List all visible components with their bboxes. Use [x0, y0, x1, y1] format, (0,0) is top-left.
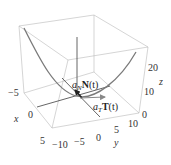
y-axis-label: y: [113, 137, 119, 148]
tangent-vector-label: aTT(t): [93, 101, 118, 114]
svg-text:0: 0: [96, 132, 101, 143]
svg-text:0: 0: [142, 109, 147, 120]
x-axis-label: x: [13, 113, 19, 124]
svg-text:5: 5: [40, 135, 45, 146]
svg-text:−5: −5: [8, 87, 19, 98]
svg-text:−5: −5: [74, 136, 85, 147]
svg-text:5: 5: [114, 124, 119, 135]
svg-text:20: 20: [148, 62, 158, 73]
bounding-box: [19, 15, 148, 128]
z-axis-label: z: [158, 76, 163, 87]
svg-text:0: 0: [28, 109, 33, 120]
3d-plot: aNN(t) aTT(t) −5 0 5 x −10 −5 0 5 10 y 0…: [0, 0, 171, 165]
svg-text:−10: −10: [52, 139, 68, 150]
z-axis-ticks: 0 10 20 z: [142, 62, 163, 120]
svg-text:10: 10: [144, 86, 154, 97]
svg-text:10: 10: [128, 118, 138, 129]
y-axis-ticks: −10 −5 0 5 10 y: [52, 118, 138, 150]
